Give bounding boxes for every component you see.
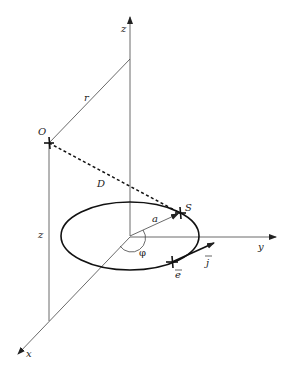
- a-label: a: [152, 213, 158, 224]
- x-axis-label: x: [26, 348, 32, 359]
- d-label: D: [96, 178, 105, 189]
- s-label: S: [185, 202, 192, 213]
- phi-label: φ: [139, 247, 146, 258]
- e-label: e: [175, 269, 181, 280]
- z-height-label: z: [37, 229, 44, 240]
- o-label: O: [38, 126, 46, 137]
- z-axis-label: z: [120, 23, 127, 34]
- j-label: j: [204, 257, 209, 268]
- point-e-marker: [166, 256, 178, 268]
- r-line: [49, 59, 130, 143]
- y-axis-label: y: [257, 241, 264, 252]
- x-axis: [18, 237, 130, 354]
- loop-diagram: z y x r O D S a z φ e j: [0, 0, 287, 368]
